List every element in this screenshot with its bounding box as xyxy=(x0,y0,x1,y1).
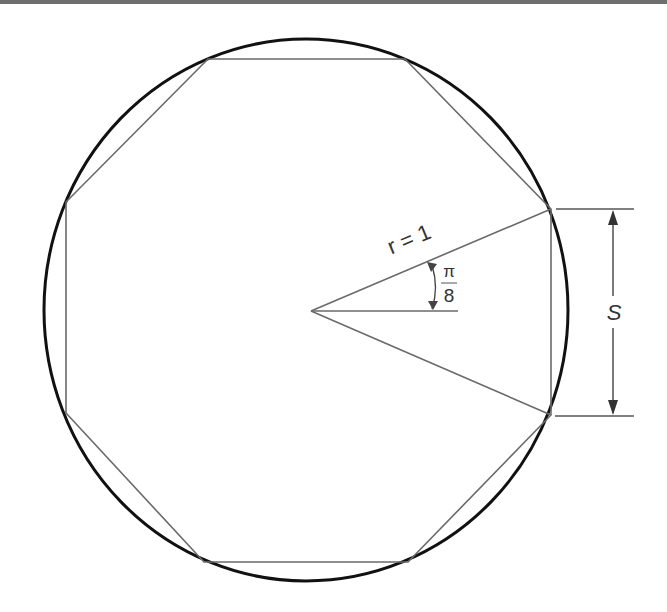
radius-line-lower xyxy=(311,311,551,415)
octagon-diagram: r = 1 π 8 S xyxy=(0,0,667,612)
unit-circle xyxy=(44,39,568,581)
dimension-arrowhead-down-icon xyxy=(608,400,618,415)
angle-label-denominator: 8 xyxy=(444,285,455,306)
side-label: S xyxy=(607,300,622,325)
radius-label: r = 1 xyxy=(384,219,435,259)
octagon xyxy=(66,59,551,562)
dimension-arrowhead-up-icon xyxy=(608,210,618,225)
radius-line xyxy=(311,209,551,311)
angle-label-numerator: π xyxy=(443,262,455,281)
angle-arrowhead-bottom-icon xyxy=(428,301,438,310)
angle-arrowhead-top-icon xyxy=(427,262,437,272)
